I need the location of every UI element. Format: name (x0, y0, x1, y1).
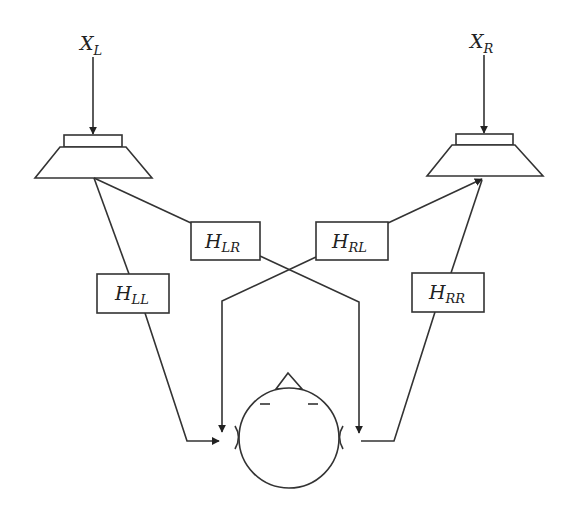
input-label-right: XR (468, 30, 494, 56)
right-speaker-icon (427, 134, 543, 176)
listener-head-icon (235, 373, 343, 488)
transfer-box-HRR: HRR (412, 273, 484, 312)
transfer-box-HLL: HLL (97, 274, 169, 313)
left-ear-icon (235, 426, 239, 449)
right-ear-icon (340, 426, 344, 449)
input-label-left: XL (78, 32, 102, 58)
left-speaker-icon (35, 135, 152, 178)
head-circle (239, 388, 339, 488)
transfer-box-HLR: HLR (191, 222, 260, 260)
crosstalk-diagram: XL XR HLR HRL HLL HRR (0, 0, 571, 510)
path-right-ear-to-HRR (361, 312, 435, 441)
path-HRR-to-right-speaker (451, 180, 482, 273)
nose-icon (276, 373, 302, 389)
transfer-box-HRL: HRL (316, 222, 388, 260)
path-HRL-to-right-speaker (388, 179, 482, 223)
path-HLL-to-left-ear (145, 313, 219, 441)
